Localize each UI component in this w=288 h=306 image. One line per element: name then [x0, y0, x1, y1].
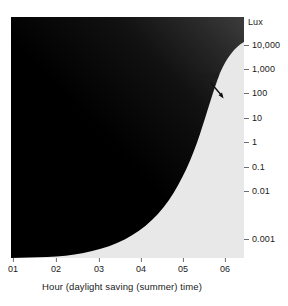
y-tick-mark: [244, 167, 249, 168]
y-tick-mark: [244, 191, 249, 192]
x-tick-label: 03: [94, 264, 104, 274]
night-region-shape: [11, 17, 244, 258]
x-tick-04: 04: [136, 258, 146, 274]
x-tick-label: 06: [220, 264, 230, 274]
y-tick-mark: [244, 118, 249, 119]
night-region: [11, 17, 244, 258]
x-tick-mark: [141, 258, 142, 262]
y-tick-mark: [244, 69, 249, 70]
y-tick-mark: [244, 93, 249, 94]
y-tick-mark: [244, 239, 249, 240]
plot-area: Sunrise: [11, 17, 244, 258]
y-tick-label: 10: [252, 113, 262, 123]
y-tick-mark: [244, 142, 249, 143]
sunrise-annotation-label: Sunrise: [187, 70, 219, 80]
x-tick-mark: [13, 258, 14, 262]
y-tick-label: 1,000: [252, 64, 275, 74]
x-tick-mark: [99, 258, 100, 262]
y-axis-title: Lux: [248, 17, 263, 27]
x-tick-label: 04: [136, 264, 146, 274]
x-tick-label: 05: [178, 264, 188, 274]
y-tick-label: 10,000: [252, 40, 280, 50]
illuminance-chart: Sunrise Lux 10,000 1,000 100 10 1: [0, 0, 288, 306]
x-axis-title: Hour (daylight saving (summer) time): [0, 281, 244, 292]
x-tick-mark: [183, 258, 184, 262]
x-tick-06: 06: [220, 258, 230, 274]
y-tick-label: 100: [252, 88, 267, 98]
night-area-path: [11, 17, 244, 258]
y-tick-mark: [244, 45, 249, 46]
y-axis: Lux 10,000 1,000 100 10 1 0.1 0.01: [244, 17, 288, 258]
x-tick-01: 01: [8, 258, 18, 274]
y-tick-label: 0.001: [252, 234, 275, 244]
x-tick-mark: [56, 258, 57, 262]
x-tick-label: 02: [51, 264, 61, 274]
x-tick-02: 02: [51, 258, 61, 274]
x-tick-05: 05: [178, 258, 188, 274]
y-tick-label: 0.01: [252, 186, 270, 196]
x-axis: 01 02 03 04 05 06 Hour (daylight saving …: [0, 258, 288, 306]
y-tick-label: 1: [252, 137, 257, 147]
x-tick-03: 03: [94, 258, 104, 274]
x-tick-label: 01: [8, 264, 18, 274]
x-tick-mark: [225, 258, 226, 262]
y-tick-label: 0.1: [252, 162, 265, 172]
